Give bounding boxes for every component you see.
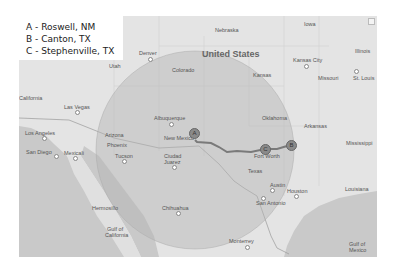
label-california: California — [19, 95, 42, 101]
city-dot-houston — [294, 194, 299, 199]
city-dot-san-antonio — [261, 196, 266, 201]
label-texas: Texas — [248, 168, 262, 174]
city-dot-austin — [270, 188, 275, 193]
city-dot-denver — [148, 57, 153, 62]
label-juarez: Juarez — [164, 159, 181, 165]
label-houston: Houston — [287, 188, 308, 194]
city-dot-chihuahua — [176, 211, 181, 216]
label-chihuahua: Chihuahua — [162, 205, 189, 211]
label-st-louis: St. Louis — [353, 75, 374, 81]
label-kansas: Kansas — [253, 72, 271, 78]
city-dot-san-diego — [54, 154, 59, 159]
label-san-antonio: San Antonio — [256, 200, 286, 206]
map-marker-a[interactable]: A — [189, 128, 200, 139]
label-gulf-of-mexico-2: Mexico — [349, 247, 366, 253]
map-marker-b[interactable]: B — [286, 140, 297, 151]
label-oklahoma: Oklahoma — [262, 115, 287, 121]
label-gulf-of-california-2: California — [105, 232, 128, 238]
label-nebraska: Nebraska — [215, 27, 239, 33]
label-illinois: Illinois — [355, 48, 370, 54]
city-dot-los-angeles — [42, 136, 47, 141]
map-marker-c[interactable]: C — [260, 144, 271, 155]
label-monterrey: Monterrey — [229, 238, 254, 244]
label-arkansas: Arkansas — [304, 123, 327, 129]
label-iowa: Iowa — [304, 21, 316, 27]
label-mississippi: Mississippi — [346, 140, 373, 146]
city-dot-mexicali — [73, 156, 78, 161]
city-dot-albuquerque — [169, 122, 174, 127]
label-denver: Denver — [139, 50, 157, 56]
label-colorado: Colorado — [172, 67, 194, 73]
label-utah: Utah — [109, 63, 121, 69]
city-dot-kansas-city — [304, 64, 309, 69]
legend-item-a: A - Roswell, NM — [26, 21, 123, 33]
label-kansas-city: Kansas City — [293, 57, 322, 63]
label-louisiana: Louisiana — [345, 186, 369, 192]
legend-item-b: B - Canton, TX — [26, 33, 123, 45]
label-albuquerque: Albuquerque — [154, 115, 185, 121]
city-dot-monterrey — [245, 245, 250, 250]
legend-item-c: C - Stephenville, TX — [26, 45, 123, 57]
city-dot-ciudad-juarez — [172, 165, 177, 170]
city-dot-st-louis — [354, 69, 359, 74]
map-corner-button[interactable] — [368, 18, 375, 25]
label-san-diego: San Diego — [26, 149, 52, 155]
label-arizona: Arizona — [105, 132, 124, 138]
label-missouri: Missouri — [318, 75, 338, 81]
label-phoenix: Phoenix — [107, 142, 127, 148]
city-dot-tucson — [122, 159, 127, 164]
map-legend: A - Roswell, NM B - Canton, TX C - Steph… — [19, 16, 123, 60]
label-united-states: United States — [202, 51, 260, 57]
city-dot-las-vegas — [75, 110, 80, 115]
label-los-angeles: Los Angeles — [25, 130, 55, 136]
label-hermosillo: Hermosillo — [92, 205, 118, 211]
